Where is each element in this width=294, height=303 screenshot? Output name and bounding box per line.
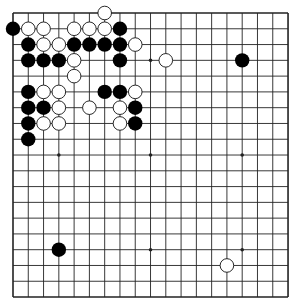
- white-stone: [52, 85, 66, 99]
- black-stone: [21, 37, 35, 51]
- white-stone: [67, 22, 81, 36]
- black-stone: [36, 100, 50, 114]
- black-stone: [235, 53, 249, 67]
- white-stone: [67, 69, 81, 83]
- black-stone: [113, 85, 127, 99]
- black-stone: [52, 243, 66, 257]
- star-point: [240, 153, 244, 157]
- black-stone: [21, 85, 35, 99]
- white-stone: [37, 85, 51, 99]
- white-stone: [52, 101, 66, 115]
- white-stone: [37, 117, 51, 131]
- black-stone: [36, 53, 50, 67]
- black-stone: [21, 132, 35, 146]
- white-stone: [21, 22, 35, 36]
- black-stone: [113, 22, 127, 36]
- star-point: [149, 248, 153, 252]
- black-stone: [21, 53, 35, 67]
- star-point: [240, 248, 244, 252]
- black-stone: [97, 85, 111, 99]
- black-stone: [6, 22, 20, 36]
- white-stone: [98, 22, 112, 36]
- black-stone: [82, 37, 96, 51]
- black-stone: [52, 53, 66, 67]
- go-board: [0, 0, 294, 303]
- black-stone: [21, 116, 35, 130]
- white-stone: [67, 54, 81, 68]
- white-stone: [37, 22, 51, 36]
- white-stone: [113, 117, 127, 131]
- black-stone: [113, 37, 127, 51]
- white-stone: [98, 6, 112, 20]
- white-stone: [52, 38, 66, 52]
- white-stone: [159, 54, 173, 68]
- star-point: [149, 59, 153, 63]
- white-stone: [83, 101, 97, 115]
- black-stone: [67, 37, 81, 51]
- black-stone: [97, 37, 111, 51]
- white-stone: [52, 117, 66, 131]
- white-stone: [37, 38, 51, 52]
- black-stone: [128, 116, 142, 130]
- white-stone: [83, 22, 97, 36]
- star-point: [57, 153, 61, 157]
- white-stone: [128, 38, 142, 52]
- black-stone: [21, 100, 35, 114]
- black-stone: [128, 100, 142, 114]
- black-stone: [113, 53, 127, 67]
- star-point: [149, 153, 153, 157]
- white-stone: [128, 85, 142, 99]
- white-stone: [220, 259, 234, 273]
- white-stone: [113, 101, 127, 115]
